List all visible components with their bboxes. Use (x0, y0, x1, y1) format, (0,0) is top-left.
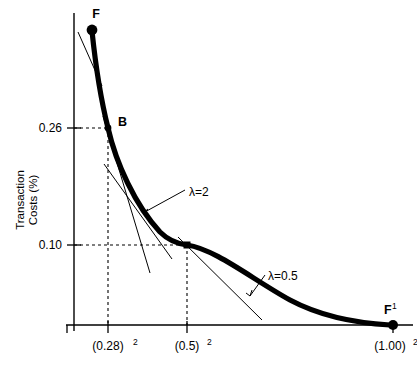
point-marker-mid (184, 242, 191, 249)
tangent-at-F-line (78, 32, 102, 86)
leader-lambda-2 (143, 190, 185, 213)
y-tick-label-010: 0.10 (39, 238, 63, 252)
point-label-B: B (118, 115, 127, 129)
x-tick-label-05-base: (0.5) (175, 339, 200, 353)
annotation-lambda-2: λ=2 (189, 185, 209, 199)
x-tick-label-100-base: (1.00) (374, 339, 405, 353)
x-tick-label-028-base: (0.28) (92, 339, 123, 353)
y-axis-title-line1: Transaction (14, 170, 26, 230)
x-tick-label-028-group: (0.28) 2 (92, 337, 138, 353)
annotation-leaders (143, 190, 265, 296)
y-tick-label-026: 0.26 (39, 121, 63, 135)
y-axis-title: Transaction Costs (%) (14, 170, 39, 230)
x-tick-label-100-superscript: 2 (413, 337, 417, 347)
point-label-F1-group: F 1 (384, 301, 397, 317)
chart-axes (66, 13, 413, 331)
point-label-F1-base: F (384, 303, 392, 317)
x-tick-label-05-superscript: 2 (207, 337, 212, 347)
x-tick-label-05-group: (0.5) 2 (175, 337, 212, 353)
x-axis-ticks (67, 321, 393, 333)
tangent-lambda-half-line (178, 237, 262, 320)
point-label-F1-superscript: 1 (392, 301, 397, 311)
leader-lambda-half-arrow2 (246, 293, 250, 296)
point-marker-F1 (388, 320, 398, 330)
x-tick-label-028-superscript: 2 (133, 337, 138, 347)
tangent-at-B-line (103, 116, 150, 273)
annotation-lambda-half: λ=0.5 (268, 269, 298, 283)
guide-lines (74, 128, 187, 325)
point-marker-B (105, 125, 112, 132)
point-marker-F (87, 25, 98, 36)
transaction-costs-frontier-chart: F B F 1 0.26 0.10 (0.28) 2 (0.5) 2 (1.00… (0, 0, 417, 367)
data-point-markers (87, 25, 398, 330)
frontier-curve-path (92, 31, 390, 325)
frontier-curve (92, 31, 390, 325)
tangent-lambda-2-line (104, 164, 172, 259)
y-axis-title-line2: Costs (%) (27, 175, 39, 226)
point-label-F: F (92, 7, 100, 21)
tangent-lines (78, 32, 262, 320)
x-tick-label-100-group: (1.00) 2 (374, 337, 417, 353)
